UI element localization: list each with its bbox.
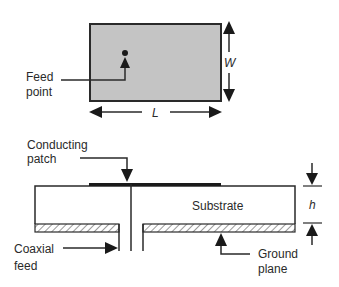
height-label: h bbox=[309, 198, 316, 212]
length-arrow-left-icon bbox=[89, 106, 102, 118]
length-label: L bbox=[152, 106, 159, 120]
feed-point-label-line1: Feed bbox=[26, 70, 53, 84]
ground-plane-label-line2: plane bbox=[258, 262, 288, 276]
patch-leader-line bbox=[80, 158, 127, 172]
top-view bbox=[61, 21, 235, 118]
conducting-patch-label-line1: Conducting bbox=[27, 138, 88, 152]
patch-rectangle bbox=[90, 24, 221, 101]
ground-arrowhead-icon bbox=[215, 233, 227, 246]
side-view bbox=[35, 158, 322, 254]
coaxial-feed-label-line2: feed bbox=[14, 259, 37, 273]
length-arrow-right-icon bbox=[209, 106, 222, 118]
substrate-label: Substrate bbox=[192, 199, 244, 213]
feed-point-label-line2: point bbox=[26, 85, 53, 99]
microstrip-patch-antenna-diagram: Feed point W L Conducting patc bbox=[0, 0, 339, 287]
conducting-patch bbox=[89, 183, 221, 186]
ground-plane-label-line1: Ground bbox=[258, 247, 298, 261]
width-label: W bbox=[224, 56, 237, 70]
patch-arrowhead-icon bbox=[121, 169, 133, 182]
ground-plane-left bbox=[35, 224, 119, 232]
width-arrow-down-icon bbox=[223, 89, 235, 102]
coaxial-feed-label-line1: Coaxial bbox=[14, 242, 54, 256]
height-arrow-down-icon bbox=[306, 173, 318, 185]
coax-arrowhead-icon bbox=[105, 242, 118, 254]
substrate-outline bbox=[35, 186, 295, 224]
height-arrow-up-icon bbox=[306, 224, 318, 236]
feed-point-dot bbox=[122, 50, 128, 56]
ground-plane-right bbox=[143, 224, 295, 232]
width-arrow-up-icon bbox=[223, 21, 235, 34]
conducting-patch-label-line2: patch bbox=[27, 152, 56, 166]
